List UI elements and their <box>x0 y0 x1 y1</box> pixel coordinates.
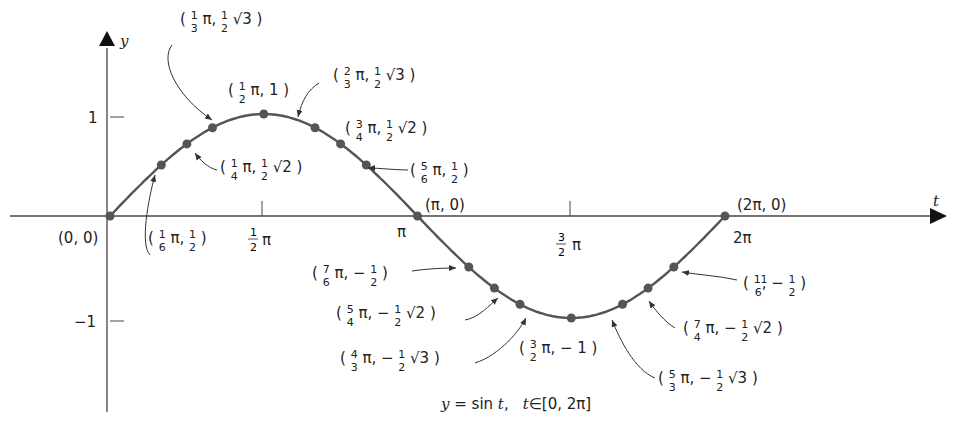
data-point <box>618 300 627 309</box>
label-pi-third: ( 13 π, 12 √3 ) <box>180 9 262 35</box>
data-point <box>413 212 422 221</box>
svg-text:2: 2 <box>250 241 257 254</box>
data-point <box>490 284 499 293</box>
label-five-sixths-pi: ( 56 π, 12 ) <box>410 160 469 186</box>
data-point <box>669 263 678 272</box>
data-point <box>464 263 473 272</box>
label-five-quarters-pi: ( 54 π, − 12 √2 ) <box>336 303 436 329</box>
x-axis-arrow-icon <box>930 208 947 224</box>
data-point <box>106 212 115 221</box>
x-tick-label-half-pi: 1 2 π <box>248 226 271 254</box>
data-point <box>259 110 268 119</box>
label-three-quarters-pi: ( 34 π, 12 √2 ) <box>345 118 427 144</box>
svg-text:π: π <box>262 231 271 249</box>
data-point <box>157 161 166 170</box>
svg-text:2: 2 <box>558 246 565 259</box>
label-pi-half: ( 12 π, 1 ) <box>228 80 289 106</box>
label-four-thirds-pi: ( 43 π, − 12 √3 ) <box>340 348 440 374</box>
point-labels: ( 13 π, 12 √3 ) ( 12 π, 1 ) ( 23 π, 12 √… <box>148 9 806 394</box>
label-seven-sixths-pi: ( 76 π, − 12 ) <box>312 263 388 289</box>
data-point <box>208 123 217 132</box>
svg-text:3: 3 <box>558 231 565 244</box>
label-eleven-sixths: ( 116, − 12 ) <box>743 273 806 299</box>
data-point <box>644 284 653 293</box>
data-point <box>516 300 525 309</box>
x-tick-label-three-halves-pi: 3 2 π <box>556 231 581 259</box>
x-tick-label-pi: π <box>397 223 406 241</box>
x-tick-label-2pi: 2π <box>733 229 752 247</box>
origin-label: (0, 0) <box>58 229 98 247</box>
x-axis-label: t <box>933 192 940 210</box>
label-quarter-pi: ( 14 π, 12 √2 ) <box>220 157 302 183</box>
data-point <box>182 139 191 148</box>
data-point <box>336 139 345 148</box>
y-axis-arrow-icon <box>99 31 115 46</box>
sine-graph: y t 1 −1 (0, 0) 1 2 π π 3 2 π 2π ( 13 π,… <box>0 0 953 430</box>
svg-text:π: π <box>572 236 581 254</box>
data-point <box>721 212 730 221</box>
figure-caption: y = sin t,t∈[0, 2π] <box>440 395 591 413</box>
label-three-halves-pi: ( 32 π, − 1 ) <box>519 338 597 364</box>
data-point <box>567 314 576 323</box>
label-seven-quarters-pi: ( 74 π, − 12 √2 ) <box>683 318 783 344</box>
svg-text:1: 1 <box>250 226 257 239</box>
label-two-thirds-pi: ( 23 π, 12 √3 ) <box>333 65 415 91</box>
label-pi: (π, 0) <box>425 196 465 214</box>
y-tick-label-neg1: −1 <box>74 313 96 331</box>
data-point <box>311 123 320 132</box>
label-five-thirds-pi: ( 53 π, − 12 √3 ) <box>658 368 758 394</box>
label-2pi: (2π, 0) <box>737 196 786 214</box>
label-sixth-pi: ( 16 π, 12 ) <box>148 228 207 254</box>
y-axis-label: y <box>119 32 129 50</box>
y-tick-label-1: 1 <box>88 109 98 127</box>
